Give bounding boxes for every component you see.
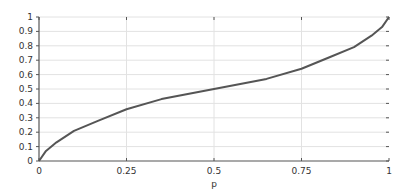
y-tick-label: 0.6 — [19, 70, 34, 80]
x-tick-label: 1 — [386, 166, 392, 176]
y-tick-label: 0.1 — [19, 142, 33, 152]
y-tick-label: 0.7 — [19, 55, 33, 65]
x-tick-label: 0 — [36, 166, 42, 176]
line-chart: 00.10.20.30.40.50.60.70.80.91 00.250.50.… — [0, 0, 406, 194]
y-tick-label: 0.9 — [19, 26, 34, 36]
y-tick-label: 0.4 — [19, 98, 34, 108]
y-tick-label: 1 — [27, 12, 33, 22]
x-tick-label: 0.25 — [116, 166, 136, 176]
x-tick-label: 0.5 — [207, 166, 221, 176]
y-tick-label: 0.5 — [19, 84, 33, 94]
x-axis-label: p — [211, 179, 217, 189]
x-tick-label: 0.75 — [291, 166, 311, 176]
y-tick-label: 0.2 — [19, 127, 33, 137]
y-tick-label: 0 — [27, 156, 33, 166]
y-tick-label: 0.3 — [19, 113, 33, 123]
y-tick-label: 0.8 — [19, 41, 34, 51]
